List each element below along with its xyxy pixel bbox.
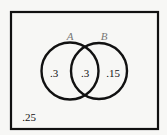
b-only-value: .15 — [106, 68, 120, 79]
intersection-value: .3 — [81, 68, 89, 79]
a-only-value: .3 — [50, 68, 58, 79]
set-a-label: A — [67, 31, 74, 42]
venn-diagram: A B .3 .3 .15 .25 — [0, 0, 167, 135]
set-b-label: B — [101, 31, 108, 42]
outside-value: .25 — [22, 112, 36, 123]
